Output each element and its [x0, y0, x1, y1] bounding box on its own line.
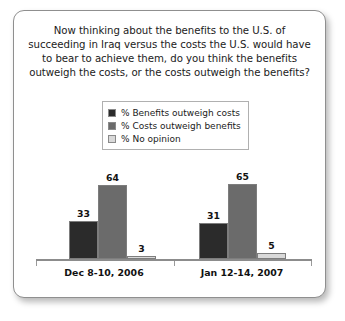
- x-axis-category-label-dec-2006: Dec 8-10, 2006: [39, 267, 169, 278]
- bar-value-label: 65: [236, 172, 249, 182]
- legend-label-benefits: % Benefits outweigh costs: [121, 108, 240, 118]
- axis-tick-middle: [174, 261, 175, 266]
- page-title: Now thinking about the benefits to the U…: [24, 24, 315, 80]
- bar-benefits-jan-2007[interactable]: 31: [199, 171, 228, 259]
- bar-costs-dec-2006[interactable]: 64: [98, 171, 127, 259]
- bar-rect[interactable]: [98, 185, 127, 259]
- bar-group-dec-2006: 33 64 3: [69, 171, 156, 259]
- bar-value-label: 31: [207, 211, 220, 221]
- bar-value-label: 5: [268, 241, 274, 251]
- legend-item-no-opinion[interactable]: % No opinion: [108, 132, 241, 145]
- bar-value-label: 64: [106, 173, 119, 183]
- legend-swatch-icon-no-opinion: [108, 135, 116, 143]
- bar-rect[interactable]: [69, 221, 98, 259]
- bar-value-label: 33: [77, 209, 90, 219]
- legend-item-costs[interactable]: % Costs outweigh benefits: [108, 119, 241, 132]
- chart-card: Now thinking about the benefits to the U…: [13, 10, 326, 298]
- plot-area: 33 64 3 31 65 5: [36, 171, 308, 259]
- bar-no-opinion-dec-2006[interactable]: 3: [127, 171, 156, 259]
- axis-tick-left: [36, 261, 37, 266]
- bar-value-label: 3: [138, 244, 144, 254]
- bar-benefits-dec-2006[interactable]: 33: [69, 171, 98, 259]
- legend-swatch-icon-benefits: [108, 109, 116, 117]
- legend-label-costs: % Costs outweigh benefits: [121, 121, 241, 131]
- legend-swatch-icon-costs: [108, 122, 116, 130]
- bar-rect[interactable]: [199, 223, 228, 259]
- chart-legend: % Benefits outweigh costs % Costs outwei…: [102, 101, 249, 150]
- bar-rect[interactable]: [228, 184, 257, 259]
- legend-label-no-opinion: % No opinion: [121, 134, 181, 144]
- axis-tick-right: [311, 261, 312, 266]
- legend-item-benefits[interactable]: % Benefits outweigh costs: [108, 106, 241, 119]
- bar-no-opinion-jan-2007[interactable]: 5: [257, 171, 286, 259]
- bar-costs-jan-2007[interactable]: 65: [228, 171, 257, 259]
- x-axis-category-label-jan-2007: Jan 12-14, 2007: [177, 267, 307, 278]
- bar-group-jan-2007: 31 65 5: [199, 171, 286, 259]
